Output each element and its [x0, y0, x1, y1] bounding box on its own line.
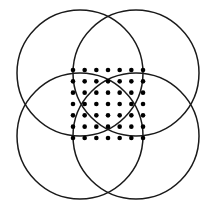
lattice-dot — [129, 113, 134, 118]
lattice-dot — [94, 113, 99, 118]
lattice-dot — [117, 68, 122, 73]
figure-container — [0, 0, 216, 213]
lattice-dot — [94, 79, 99, 84]
lattice-dot — [117, 79, 122, 84]
lattice-dot — [129, 68, 134, 73]
lattice-dot — [141, 136, 146, 141]
lattice-dot — [106, 90, 111, 95]
lattice-dot — [82, 136, 87, 141]
lattice-dot — [117, 102, 122, 107]
lattice-dot — [82, 124, 87, 129]
lattice-dot — [141, 102, 146, 107]
lattice-dot — [94, 124, 99, 129]
lattice-dot — [106, 68, 111, 73]
lattice-dot — [71, 90, 76, 95]
lattice-dot — [71, 102, 76, 107]
lattice-dot — [71, 124, 76, 129]
lattice-dot — [141, 124, 146, 129]
lattice-dot — [141, 90, 146, 95]
lattice-dot — [106, 136, 111, 141]
lattice-dot — [117, 90, 122, 95]
lattice-dot — [82, 90, 87, 95]
lattice-dot — [94, 102, 99, 107]
lattice-dot — [82, 68, 87, 73]
lattice-dot — [129, 136, 134, 141]
lattice-dot — [82, 102, 87, 107]
lattice-dot — [141, 113, 146, 118]
lattice-dot — [129, 79, 134, 84]
lattice-dot — [117, 124, 122, 129]
lattice-dot — [106, 79, 111, 84]
lattice-dot — [82, 79, 87, 84]
lattice-dot — [141, 68, 146, 73]
lattice-dot — [129, 102, 134, 107]
lattice-dot — [94, 90, 99, 95]
lattice-dot — [117, 113, 122, 118]
lattice-dot — [106, 113, 111, 118]
lattice-dot — [94, 136, 99, 141]
lattice-dot — [141, 79, 146, 84]
lattice-dot — [106, 124, 111, 129]
lattice-dot — [106, 102, 111, 107]
lattice-dot — [71, 79, 76, 84]
lattice-dot — [71, 68, 76, 73]
lattice-dot — [129, 124, 134, 129]
lattice-dot — [71, 113, 76, 118]
lattice-dot — [71, 136, 76, 141]
lattice-dot — [117, 136, 122, 141]
lattice-dot — [82, 113, 87, 118]
lattice-dot — [129, 90, 134, 95]
venn-lattice-figure — [0, 0, 216, 213]
lattice-dot — [94, 68, 99, 73]
